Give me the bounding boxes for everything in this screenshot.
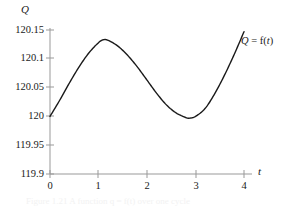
y-tick-label-120-05: 120.05	[0, 82, 44, 93]
curve-annotation: Q = f(t)	[241, 35, 273, 46]
curve-annotation-variable: Q	[241, 35, 249, 46]
x-tick-label-1: 1	[88, 181, 108, 192]
y-tick-label-120-15: 120.15	[0, 25, 44, 36]
x-tick-label-3: 3	[186, 181, 206, 192]
y-tick-label-119-9: 119.9	[0, 169, 44, 180]
x-tick-label-4: 4	[234, 181, 254, 192]
figure-container: Q t 120.15 120.1 120.05 120 119.95 119.9…	[0, 0, 285, 206]
x-tick-label-2: 2	[137, 181, 157, 192]
curve-annotation-operator: = f(	[249, 35, 267, 46]
y-tick-label-120: 120	[0, 111, 44, 122]
x-axis-title: t	[258, 166, 261, 177]
y-tick-label-119-95: 119.95	[0, 140, 44, 151]
curve-annotation-close-paren: )	[270, 35, 274, 46]
figure-caption: Figure 1.21 A function q = f(t) over one…	[26, 196, 266, 206]
data-curve	[50, 32, 244, 119]
y-tick-label-120-1: 120.1	[0, 53, 44, 64]
y-axis-title: Q	[21, 4, 29, 15]
x-tick-label-0: 0	[40, 181, 60, 192]
